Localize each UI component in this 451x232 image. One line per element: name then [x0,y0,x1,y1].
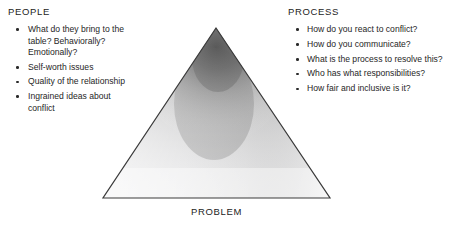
bullet-dot-icon [296,28,299,31]
bullet-dot-icon [16,28,19,31]
problem-label: PROBLEM [0,206,451,218]
list-item: Self-worth issues [8,62,138,74]
list-item: What do they bring to the table? Behavio… [8,24,138,59]
list-item-label: Who has what responsibilities? [307,68,425,78]
list-item: How do you react to conflict? [288,24,448,36]
list-item-label: How do you react to conflict? [307,24,417,34]
people-bullet-list: What do they bring to the table? Behavio… [8,24,138,114]
list-item-label: What is the process to resolve this? [307,54,443,64]
bullet-dot-icon [16,66,19,69]
bullet-dot-icon [296,73,299,76]
list-item: What is the process to resolve this? [288,54,448,66]
list-item-label: What do they bring to the table? Behavio… [28,24,124,57]
bullet-dot-icon [296,58,299,61]
list-item-label: How fair and inclusive is it? [307,83,411,93]
list-item: How fair and inclusive is it? [288,83,448,95]
bullet-dot-icon [16,81,19,84]
list-item: How do you communicate? [288,39,448,51]
list-item: Who has what responsibilities? [288,68,448,80]
list-item: Ingrained ideas about conflict [8,91,138,114]
process-bullet-list: How do you react to conflict? How do you… [288,24,448,95]
diagram-canvas: PEOPLE What do they bring to the table? … [0,0,451,232]
list-item-label: How do you communicate? [307,39,411,49]
process-heading: PROCESS [288,6,448,18]
bullet-dot-icon [16,95,19,98]
process-column: PROCESS How do you react to conflict? Ho… [288,6,448,98]
list-item: Quality of the relationship [8,76,138,88]
list-item-label: Self-worth issues [28,62,93,72]
people-column: PEOPLE What do they bring to the table? … [8,6,138,117]
list-item-label: Quality of the relationship [28,76,125,86]
problem-label-text: PROBLEM [191,206,242,217]
bullet-dot-icon [296,43,299,46]
people-heading: PEOPLE [8,6,138,18]
list-item-label: Ingrained ideas about conflict [28,91,111,113]
bullet-dot-icon [296,88,299,91]
